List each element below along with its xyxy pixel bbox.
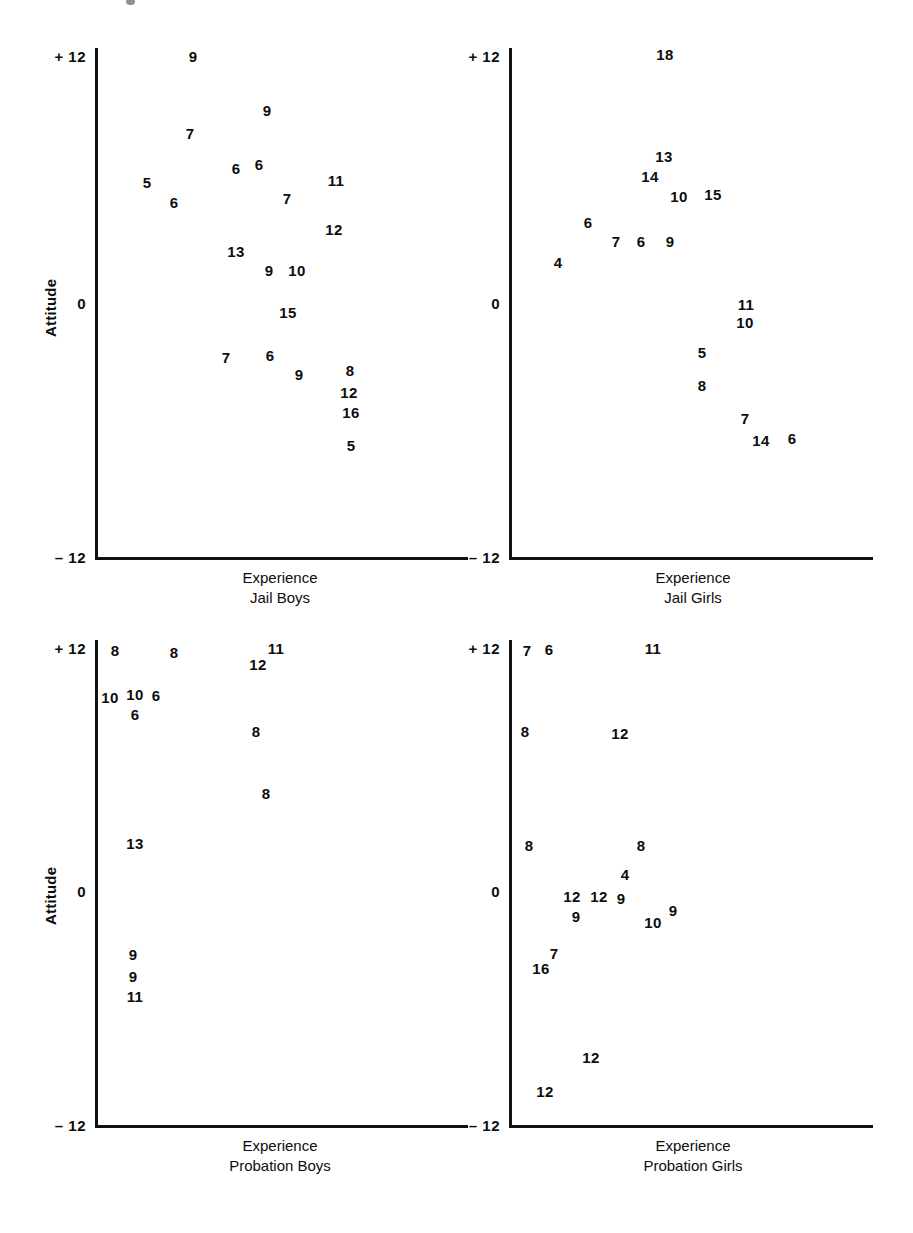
y-tick-label-minus12: – 12 — [432, 1118, 500, 1133]
data-point-label: 12 — [590, 889, 607, 904]
data-point-label: 11 — [645, 641, 661, 656]
x-axis-line — [509, 1125, 873, 1128]
data-point-label: 12 — [563, 889, 580, 904]
x-axis-caption: Experience Probation Girls — [578, 1136, 808, 1177]
data-point-label: 12 — [536, 1084, 553, 1099]
data-point-label: 4 — [621, 867, 630, 882]
data-point-label: 12 — [611, 726, 628, 741]
scatter-figure: + 12 0 – 12 Attitude Experience Jail Boy… — [0, 0, 913, 1233]
data-point-label: 6 — [545, 642, 554, 657]
data-point-label: 9 — [572, 909, 581, 924]
data-point-label: 16 — [532, 961, 549, 976]
x-axis-title: Experience — [578, 1136, 808, 1156]
y-axis-line — [509, 640, 512, 1128]
data-point-label: 9 — [617, 891, 626, 906]
data-point-label: 7 — [550, 946, 559, 961]
data-point-label: 10 — [644, 915, 661, 930]
panel-probation-girls: + 12 0 – 12 Experience Probation Girls 7… — [0, 0, 913, 1233]
y-tick-label-plus12: + 12 — [432, 641, 500, 656]
data-point-label: 8 — [637, 838, 646, 853]
panel-group-label: Probation Girls — [578, 1156, 808, 1176]
data-point-label: 8 — [525, 838, 534, 853]
data-point-label: 7 — [523, 643, 532, 658]
data-point-label: 9 — [669, 903, 678, 918]
data-point-label: 8 — [521, 724, 530, 739]
y-tick-label-zero: 0 — [432, 884, 500, 899]
data-point-label: 12 — [582, 1050, 599, 1065]
